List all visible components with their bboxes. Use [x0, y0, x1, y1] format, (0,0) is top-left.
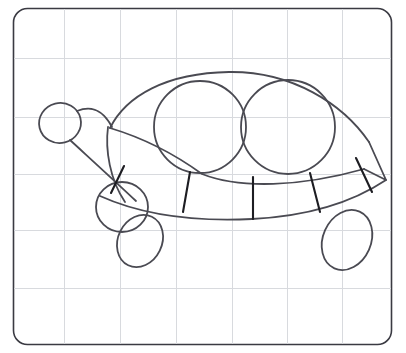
drawing-canvas [0, 0, 406, 353]
turtle-drawing-svg [0, 0, 406, 353]
